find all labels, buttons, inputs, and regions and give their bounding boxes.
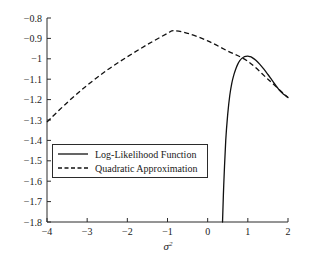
y-tick-label: −1.7: [24, 196, 42, 207]
figure-container: −0.8−0.9−1−1.1−1.2−1.3−1.4−1.5−1.6−1.7−1…: [0, 0, 311, 266]
series-log-likelihood-function: [223, 56, 288, 222]
y-tick-label: −0.8: [24, 13, 42, 24]
chart-legend: Log-Likelihood Function Quadratic Approx…: [53, 145, 208, 178]
y-tick-label: −1: [31, 53, 42, 64]
y-tick-label: −1.1: [24, 74, 42, 85]
x-axis-label: σ2: [164, 240, 173, 252]
x-tick-label: −4: [42, 226, 53, 237]
y-tick-label: −1.5: [24, 155, 42, 166]
x-tick-label: 1: [245, 226, 250, 237]
y-tick-label: −1.6: [24, 176, 42, 187]
x-tick-label: −3: [82, 226, 93, 237]
x-tick-label: −2: [122, 226, 133, 237]
y-tick-label: −1.2: [24, 94, 42, 105]
series-quadratic-approximation: [47, 31, 288, 122]
x-tick-label: −1: [162, 226, 173, 237]
legend-label-log-likelihood-function: Log-Likelihood Function: [95, 149, 196, 160]
x-axis-ticks: −4−3−2−1012: [42, 218, 291, 237]
y-tick-label: −1.3: [24, 115, 42, 126]
x-tick-label: 0: [205, 226, 210, 237]
legend-label-quadratic-approximation: Quadratic Approximation: [95, 163, 197, 174]
y-tick-label: −1.8: [24, 217, 42, 228]
axis-frame: [47, 18, 288, 222]
chart-canvas: −0.8−0.9−1−1.1−1.2−1.3−1.4−1.5−1.6−1.7−1…: [0, 0, 311, 266]
y-tick-label: −0.9: [24, 33, 42, 44]
y-tick-label: −1.4: [24, 135, 42, 146]
x-tick-label: 2: [286, 226, 291, 237]
